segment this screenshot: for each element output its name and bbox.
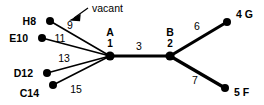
- edge-label-13: 13: [58, 52, 70, 64]
- edge-label-9: 9: [67, 19, 73, 31]
- node-h8[interactable]: [46, 17, 54, 25]
- node-a[interactable]: [105, 51, 114, 60]
- node-c14[interactable]: [49, 81, 57, 89]
- node-label-a: A: [106, 26, 114, 38]
- node-label-h8: H8: [23, 15, 37, 27]
- node-d12[interactable]: [43, 69, 51, 77]
- edge-label-3: 3: [136, 40, 142, 52]
- node-label-b: B: [166, 26, 174, 38]
- edge-label-7: 7: [192, 74, 198, 86]
- node-e10[interactable]: [38, 34, 46, 42]
- node-label-5f: 5 F: [234, 86, 250, 98]
- edge-label-15: 15: [70, 83, 82, 95]
- node-label-group: H8 E10 D12 C14 4 G 5 F A 1 B 2: [9, 8, 253, 99]
- diagram-canvas: H8 E10 D12 C14 4 G 5 F A 1 B 2 9 11 13 1…: [0, 0, 264, 105]
- node-5f[interactable]: [221, 84, 229, 92]
- node-b[interactable]: [165, 51, 174, 60]
- edge-label-6: 6: [194, 20, 200, 32]
- node-label-c14: C14: [20, 87, 39, 99]
- node-label-d12: D12: [14, 67, 33, 79]
- vacant-annotation-group: vacant: [71, 2, 123, 21]
- node-4g[interactable]: [223, 18, 231, 26]
- edge-a-e10: [42, 38, 110, 56]
- node-sublabel-b: 2: [167, 38, 173, 49]
- tree-graph-svg: H8 E10 D12 C14 4 G 5 F A 1 B 2 9 11 13 1…: [0, 0, 264, 105]
- node-label-4g: 4 G: [236, 8, 253, 20]
- edge-label-11: 11: [55, 32, 66, 44]
- node-label-e10: E10: [9, 32, 28, 44]
- edge-a-d12: [47, 56, 110, 73]
- vacant-annotation-label: vacant: [92, 2, 123, 14]
- node-sublabel-a: 1: [107, 38, 113, 49]
- vacant-arrow-head-icon: [71, 15, 80, 21]
